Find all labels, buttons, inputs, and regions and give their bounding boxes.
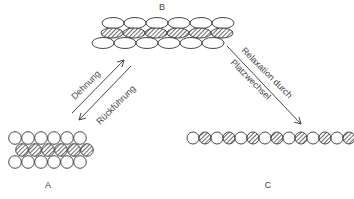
state-label-c: C	[265, 180, 272, 190]
structure-a-top-row	[9, 132, 87, 145]
structure-a-bottom-row	[9, 156, 87, 169]
label-dehnung: Dehnung	[69, 69, 102, 102]
structure-a-hatched-row	[16, 144, 94, 157]
structure-b-bottom-row	[92, 38, 224, 49]
diagram-canvas: B A	[0, 0, 354, 199]
label-rueckfuehrung: Rückführung	[94, 83, 137, 126]
state-label-b: B	[159, 2, 165, 12]
structure-c	[187, 132, 354, 144]
state-label-a: A	[45, 180, 51, 190]
structure-b	[92, 18, 234, 49]
structure-a	[9, 132, 94, 169]
structure-b-hatched-row	[101, 28, 233, 38]
structure-b-top-row	[102, 18, 234, 29]
